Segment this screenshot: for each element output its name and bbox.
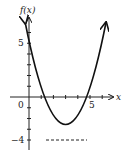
- y-tick-label-5: 5: [18, 38, 24, 48]
- x-axis-label: x: [116, 92, 121, 102]
- origin-label: 0: [18, 100, 24, 110]
- parabola-chart: f(x) x 0 5 5 −4: [0, 0, 129, 154]
- y-tick-label-neg4: −4: [11, 135, 25, 145]
- x-tick-label-5: 5: [89, 100, 95, 110]
- y-axis-label: f(x): [19, 5, 36, 15]
